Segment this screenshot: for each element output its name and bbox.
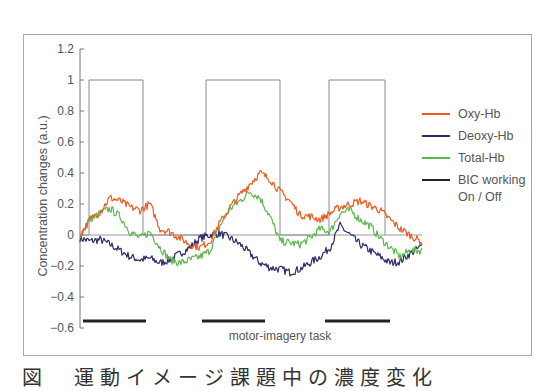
y-tick-label: −0.2 — [50, 259, 74, 273]
y-tick-label: 0.6 — [57, 135, 74, 149]
legend-label: Oxy-Hb — [458, 107, 500, 121]
y-tick-label: 0.8 — [57, 104, 74, 118]
legend-label: On / Off — [458, 190, 502, 204]
y-tick-label: 1.2 — [57, 42, 74, 56]
bic-on-off-step-line — [80, 80, 385, 235]
legend-label: BIC working — [458, 173, 525, 187]
legend-label: Deoxy-Hb — [458, 129, 514, 143]
y-tick-label: 0.4 — [57, 166, 74, 180]
y-axis — [80, 49, 84, 328]
y-tick-label: 0 — [67, 228, 74, 242]
y-tick-label: −0.6 — [50, 321, 74, 335]
legend-label: Total-Hb — [458, 151, 505, 165]
hb-series-lines — [80, 171, 422, 276]
y-tick-label: −0.4 — [50, 290, 74, 304]
figure-caption: 図 運動イメージ課題中の濃度変化 — [22, 362, 438, 391]
y-tick-labels: 1.210.80.60.40.20−0.2−0.4−0.6 — [50, 42, 74, 335]
x-axis-label: motor-imagery task — [229, 329, 333, 343]
y-tick-label: 1 — [67, 73, 74, 87]
series-line-deoxy-hb — [80, 222, 422, 276]
y-axis-label: Concentration changes (a.u.) — [36, 115, 50, 276]
y-tick-label: 0.2 — [57, 197, 74, 211]
series-line-oxy-hb — [80, 171, 422, 251]
legend: Oxy-HbDeoxy-HbTotal-HbBIC workingOn / Of… — [422, 107, 525, 204]
